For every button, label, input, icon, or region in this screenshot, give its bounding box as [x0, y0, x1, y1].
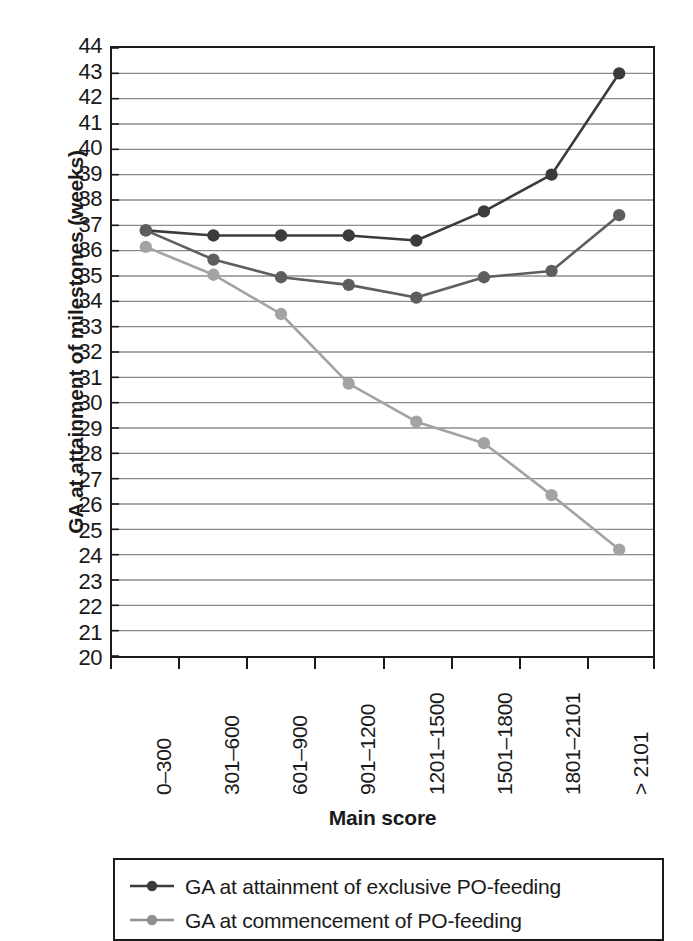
legend-label: GA at attainment of exclusive PO-feeding [185, 876, 561, 897]
data-point-marker [343, 229, 355, 241]
y-axis-tick-label: 37 [52, 213, 102, 235]
data-point-marker [343, 378, 355, 390]
data-point-marker [343, 279, 355, 291]
y-axis-tick-label: 34 [52, 290, 102, 312]
data-point-marker [207, 253, 219, 265]
data-point-marker [478, 437, 490, 449]
y-axis-tick-label: 23 [52, 570, 102, 592]
x-axis-tick-label: 301–600 [221, 665, 242, 795]
x-axis-title: Main score [110, 806, 655, 830]
y-axis-tick-label: 40 [52, 137, 102, 159]
data-point-marker [140, 241, 152, 253]
y-axis-tick-label: 41 [52, 111, 102, 133]
y-axis-tick-label: 29 [52, 417, 102, 439]
y-axis-tick-label: 33 [52, 315, 102, 337]
x-axis-tick-label: 1201–1500 [426, 665, 447, 795]
chart-figure: GA at attainment of milestones (weeks) 4… [0, 0, 693, 941]
y-axis-tick-label: 27 [52, 468, 102, 490]
x-axis-tick [246, 658, 248, 669]
x-axis-tick-labels: 0–300301–600601–900901–12001201–15001501… [110, 669, 655, 789]
data-point-marker [140, 224, 152, 236]
plot-area [110, 46, 655, 658]
y-axis-tick-label: 36 [52, 239, 102, 261]
legend-label: GA at commencement of PO-feeding [185, 910, 522, 931]
data-point-marker [207, 269, 219, 281]
x-axis-tick [383, 658, 385, 669]
x-axis-tick [653, 658, 655, 669]
y-axis-tick-label: 35 [52, 264, 102, 286]
data-series [140, 209, 626, 304]
y-axis-tick-label: 42 [52, 86, 102, 108]
data-point-marker [410, 416, 422, 428]
plot-canvas [112, 48, 653, 656]
legend-line-marker-icon [129, 911, 175, 929]
x-axis-tick-label: 1801–2101 [562, 665, 583, 795]
data-point-marker [613, 209, 625, 221]
y-axis-tick-label: 31 [52, 366, 102, 388]
y-axis-tick-label: 22 [52, 596, 102, 618]
y-axis-tick-label: 32 [52, 341, 102, 363]
x-axis-tick-label: 1501–1800 [494, 665, 515, 795]
data-point-marker [275, 229, 287, 241]
y-axis-tick-label: 38 [52, 188, 102, 210]
legend-item: GA at commencement of PO-feeding [129, 903, 662, 937]
y-axis-tick-label: 20 [52, 647, 102, 669]
data-point-marker [613, 543, 625, 555]
y-axis-tick-label: 28 [52, 443, 102, 465]
data-point-marker [410, 291, 422, 303]
x-axis-tick [451, 658, 453, 669]
x-axis-tick [110, 658, 112, 669]
x-axis-tick-label: 901–1200 [357, 665, 378, 795]
y-axis-tick-label: 39 [52, 162, 102, 184]
x-axis-tick-label: > 2101 [630, 665, 651, 795]
x-axis-tick [178, 658, 180, 669]
y-axis-tick-label: 25 [52, 519, 102, 541]
legend-line-marker-icon [129, 877, 175, 895]
y-axis-tick-label: 30 [52, 392, 102, 414]
data-point-marker [275, 308, 287, 320]
x-axis-tick [587, 658, 589, 669]
x-axis-tick-label: 0–300 [153, 665, 174, 795]
data-series [140, 67, 626, 247]
y-axis-tick-label: 24 [52, 545, 102, 567]
y-axis-tick-labels: 4443424140393837363534333231302928272625… [52, 46, 102, 658]
y-axis-tick-label: 43 [52, 60, 102, 82]
y-axis-tick-label: 26 [52, 494, 102, 516]
data-point-marker [207, 229, 219, 241]
y-axis-tick-label: 44 [52, 35, 102, 57]
chart-legend: GA at attainment of exclusive PO-feeding… [113, 858, 664, 941]
data-point-marker [478, 271, 490, 283]
data-point-marker [275, 271, 287, 283]
x-axis-tick-label: 601–900 [289, 665, 310, 795]
data-point-marker [613, 67, 625, 79]
data-point-marker [545, 265, 557, 277]
x-axis-tick [519, 658, 521, 669]
data-point-marker [545, 169, 557, 181]
legend-item: GA at attainment of exclusive PO-feeding [129, 869, 662, 903]
data-series [140, 241, 626, 556]
x-axis-tick [314, 658, 316, 669]
y-axis-tick-label: 21 [52, 621, 102, 643]
data-point-marker [545, 489, 557, 501]
data-point-marker [410, 234, 422, 246]
data-point-marker [478, 205, 490, 217]
